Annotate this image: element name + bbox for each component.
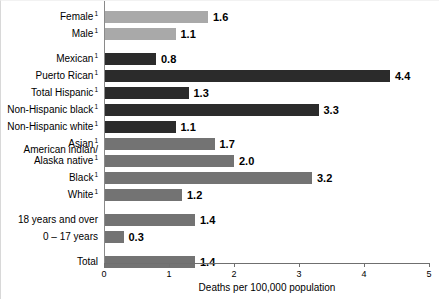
x-axis-tick	[299, 263, 300, 267]
x-axis-tick-label: 0	[101, 269, 106, 279]
category-label: 0 – 17 years	[43, 232, 98, 242]
footnote-marker: 1	[94, 137, 98, 144]
category-label-column: Female1Male1Mexican1Puerto Rican1Total H…	[1, 1, 101, 263]
footnote-marker: 1	[94, 171, 98, 178]
x-axis-tick-label: 1	[166, 269, 171, 279]
bars-area: 1.61.10.84.41.33.31.11.72.03.21.21.40.31…	[104, 1, 430, 263]
footnote-marker: 1	[94, 154, 98, 161]
bar	[104, 70, 390, 82]
footnote-marker: 1	[94, 86, 98, 93]
bar-value-label: 1.6	[213, 11, 228, 23]
bar-value-label: 0.8	[161, 53, 176, 65]
bar-value-label: 2.0	[239, 155, 254, 167]
x-axis-tick-label: 5	[426, 269, 431, 279]
category-label: Total Hispanic1	[31, 88, 98, 98]
footnote-marker: 1	[94, 69, 98, 76]
footnote-marker: 1	[94, 188, 98, 195]
category-label: Total	[77, 257, 98, 267]
x-axis-tick	[364, 263, 365, 267]
footnote-marker: 1	[94, 52, 98, 59]
bar-value-label: 1.4	[200, 214, 215, 226]
category-label: Male1	[72, 29, 98, 39]
category-label: White1	[68, 190, 98, 200]
bar	[104, 155, 234, 167]
x-axis-tick	[169, 263, 170, 267]
footnote-marker: 1	[94, 10, 98, 17]
bar	[104, 53, 156, 65]
bar-value-label: 3.2	[317, 172, 332, 184]
bar	[104, 87, 189, 99]
x-axis-tick	[429, 263, 430, 267]
x-axis-line	[104, 263, 430, 264]
bar	[104, 104, 319, 116]
bar-value-label: 1.3	[194, 87, 209, 99]
footnote-marker: 1	[94, 27, 98, 34]
category-label: Black1	[69, 173, 98, 183]
bar-value-label: 1.4	[200, 256, 215, 268]
category-label: Non-Hispanic white1	[7, 122, 98, 132]
category-label: American indian/Alaska native1	[24, 144, 98, 166]
bar	[104, 11, 208, 23]
bar	[104, 214, 195, 226]
category-label: Mexican1	[56, 54, 98, 64]
category-label: Non-Hispanic black1	[7, 105, 98, 115]
x-axis-tick-label: 2	[231, 269, 236, 279]
bar-chart-plot: Female1Male1Mexican1Puerto Rican1Total H…	[1, 1, 439, 299]
bar	[104, 256, 195, 268]
bar	[104, 121, 176, 133]
x-axis-tick-label: 4	[361, 269, 366, 279]
x-axis-tick	[234, 263, 235, 267]
bar	[104, 172, 312, 184]
footnote-marker: 1	[94, 103, 98, 110]
y-axis-line	[104, 1, 105, 263]
bar	[104, 231, 124, 243]
category-label: 18 years and over	[18, 215, 98, 225]
bar	[104, 189, 182, 201]
bar	[104, 138, 215, 150]
bar-value-label: 1.7	[220, 138, 235, 150]
bar-value-label: 3.3	[324, 104, 339, 116]
category-label: Puerto Rican1	[36, 71, 98, 81]
bar-value-label: 1.1	[181, 121, 196, 133]
bar-value-label: 1.1	[181, 28, 196, 40]
bar-value-label: 0.3	[129, 231, 144, 243]
category-label-line: American indian/	[24, 144, 98, 155]
category-label: Female1	[60, 12, 98, 22]
chart-figure: Female1Male1Mexican1Puerto Rican1Total H…	[0, 0, 439, 299]
bar	[104, 28, 176, 40]
x-axis-title: Deaths per 100,000 population	[104, 282, 430, 293]
bar-value-label: 4.4	[395, 70, 410, 82]
category-label-line: Alaska native1	[24, 155, 98, 166]
x-axis-tick	[104, 263, 105, 267]
x-axis-tick-label: 3	[296, 269, 301, 279]
bar-value-label: 1.2	[187, 189, 202, 201]
footnote-marker: 1	[94, 120, 98, 127]
